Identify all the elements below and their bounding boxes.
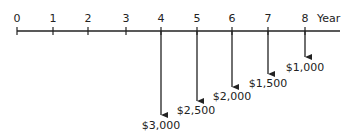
year-label-8: 8 (302, 12, 309, 25)
year-label-4: 4 (158, 12, 165, 25)
year-label-1: 1 (50, 12, 57, 25)
cash-flow-svg: 0 1 2 3 4 5 6 7 8 Year $3,000 $2,500 $2,… (0, 0, 362, 133)
cash-flow-diagram: 0 1 2 3 4 5 6 7 8 Year $3,000 $2,500 $2,… (0, 0, 362, 133)
year-label-7: 7 (265, 12, 272, 25)
cash-flow-amount-year-7: $1,500 (249, 77, 288, 90)
axis-label-year: Year (316, 12, 341, 25)
cash-flow-amount-year-5: $2,500 (177, 104, 216, 117)
year-label-6: 6 (229, 12, 236, 25)
cash-flow-amount-year-4: $3,000 (142, 119, 181, 132)
year-label-2: 2 (85, 12, 92, 25)
year-label-5: 5 (194, 12, 201, 25)
cash-flow-amount-year-8: $1,000 (286, 61, 325, 74)
cash-flow-amount-year-6: $2,000 (213, 90, 252, 103)
year-label-0: 0 (14, 12, 21, 25)
year-label-3: 3 (123, 12, 130, 25)
